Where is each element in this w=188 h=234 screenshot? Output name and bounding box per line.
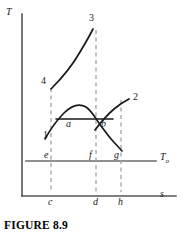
figure-caption: FIGURE 8.9 (4, 219, 68, 231)
figure-8-9: T s To 1 2 3 4 a b c d h e f g FIGURE 8.… (0, 0, 188, 234)
ambient-mark-label-e: e (44, 150, 48, 160)
state-point-label-4: 4 (41, 76, 46, 86)
ambient-mark-label-f: f (89, 150, 92, 160)
ambient-mark-label-g: g (114, 150, 119, 160)
ambient-temperature-label: To (160, 152, 169, 165)
axis-label-entropy: s (160, 189, 164, 199)
state-point-label-b: b (101, 119, 106, 129)
entropy-mark-label-h: h (118, 197, 123, 207)
curve-process-4-to-3 (51, 29, 93, 89)
entropy-mark-label-d: d (93, 197, 98, 207)
state-point-label-2: 2 (133, 92, 138, 102)
axis-label-temperature: T (6, 7, 12, 17)
state-point-label-a: a (66, 119, 71, 129)
state-point-label-1: 1 (43, 130, 48, 140)
entropy-mark-label-c: c (48, 197, 52, 207)
state-point-label-3: 3 (89, 13, 94, 23)
ambient-temperature-label-subscript: o (166, 157, 170, 165)
